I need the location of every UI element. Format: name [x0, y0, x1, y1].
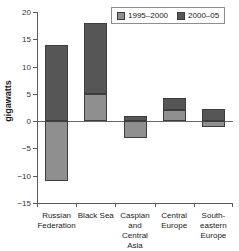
- legend-label: 2000–05: [188, 11, 219, 20]
- plot-area: 20151050−5−10−15 RussianFederationBlack …: [37, 12, 233, 203]
- x-tick-mark: [194, 203, 195, 207]
- x-axis-label: South-easternEurope: [194, 211, 233, 241]
- bar-segment: [45, 121, 68, 181]
- bar-segment: [124, 121, 147, 137]
- bar-segment: [124, 116, 147, 121]
- x-axis-label-line: South-: [194, 211, 233, 221]
- y-tick-label: −5: [22, 144, 31, 153]
- x-axis-line: [37, 203, 233, 204]
- bar-segment: [84, 94, 107, 121]
- y-tick-mark: [33, 176, 37, 177]
- bar[interactable]: [84, 12, 107, 203]
- y-tick-mark: [33, 67, 37, 68]
- y-tick-label: −15: [17, 199, 31, 208]
- bar-segment: [202, 121, 225, 126]
- y-tick-label: 0: [27, 117, 31, 126]
- legend-swatch-icon: [117, 12, 125, 20]
- legend-label: 1995–2000: [128, 11, 168, 20]
- y-axis-line: [37, 12, 38, 203]
- x-axis-label-line: and Central: [115, 221, 154, 241]
- x-axis-label-line: Black Sea: [76, 211, 115, 221]
- legend-swatch-icon: [177, 12, 185, 20]
- bar-segment: [202, 109, 225, 121]
- bar[interactable]: [45, 12, 68, 203]
- x-tick-mark: [76, 203, 77, 207]
- bar-segment: [163, 98, 186, 110]
- x-axis-label-line: Europe: [194, 231, 233, 241]
- legend-item[interactable]: 2000–05: [177, 11, 219, 20]
- bar[interactable]: [202, 12, 225, 203]
- y-tick-mark: [33, 12, 37, 13]
- legend-item[interactable]: 1995–2000: [117, 11, 168, 20]
- bar[interactable]: [124, 12, 147, 203]
- x-tick-mark: [155, 203, 156, 207]
- x-tick-mark: [232, 203, 233, 207]
- x-axis-label: Black Sea: [76, 211, 115, 221]
- bar-segment: [84, 23, 107, 94]
- y-tick-mark: [33, 148, 37, 149]
- bar-segment: [163, 110, 186, 121]
- x-axis-label-line: Caspian: [115, 211, 154, 221]
- bar[interactable]: [163, 12, 186, 203]
- chart-legend: 1995–20002000–05: [111, 7, 225, 24]
- y-axis-title: gigawatts: [3, 71, 13, 131]
- x-axis-label-line: eastern: [194, 221, 233, 231]
- x-axis-label-line: Central: [155, 211, 194, 221]
- x-axis-label-line: Europe: [155, 221, 194, 231]
- y-tick-label: −10: [17, 171, 31, 180]
- y-tick-mark: [33, 39, 37, 40]
- y-tick-mark: [33, 94, 37, 95]
- bar-segment: [45, 45, 68, 121]
- y-tick-label: 10: [22, 62, 31, 71]
- x-axis-label: Caspianand CentralAsia: [115, 211, 154, 251]
- y-tick-label: 20: [22, 8, 31, 17]
- x-axis-label: CentralEurope: [155, 211, 194, 231]
- x-axis-label-line: Russian: [37, 211, 76, 221]
- x-axis-label-line: Asia: [115, 241, 154, 251]
- y-tick-label: 5: [27, 89, 31, 98]
- y-tick-label: 15: [22, 35, 31, 44]
- x-tick-mark: [37, 203, 38, 207]
- x-tick-mark: [115, 203, 116, 207]
- x-axis-label: RussianFederation: [37, 211, 76, 231]
- x-axis-label-line: Federation: [37, 221, 76, 231]
